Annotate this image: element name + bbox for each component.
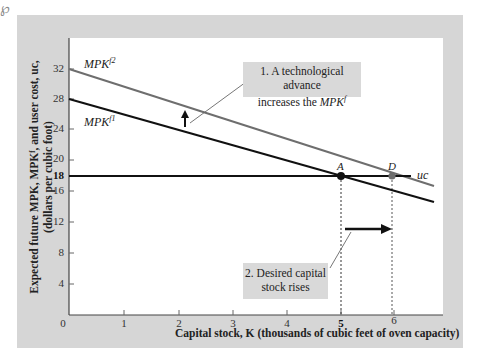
y-axis-title-line1: Expected future MPK, MPKᶠ, and user cost… xyxy=(27,60,41,293)
point-a-dot xyxy=(337,172,345,180)
mpk1-label: MPKf1 xyxy=(84,114,116,130)
y-axis-title: Expected future MPK, MPKᶠ, and user cost… xyxy=(16,38,66,315)
mpk2-label: MPKf2 xyxy=(84,56,116,72)
mpk1-line xyxy=(69,99,434,202)
chart-svg xyxy=(0,0,479,364)
x-tick-marks xyxy=(124,310,394,315)
point-a-label: A xyxy=(337,160,344,172)
annotation-technological-advance: 1. A technological advance increases the… xyxy=(243,62,361,97)
x-tick-6: 6 xyxy=(388,314,400,326)
x-axis-title: Capital stock, K (thousands of cubic fee… xyxy=(175,327,445,339)
up-arrow-head xyxy=(181,110,189,118)
point-d-label: D xyxy=(388,160,396,172)
x-tick-1: 1 xyxy=(118,317,130,329)
annotation-desired-capital-rises: 2. Desired capital stock rises xyxy=(243,263,328,299)
point-d-dot xyxy=(388,172,395,179)
x-tick-0: 0 xyxy=(57,317,69,329)
right-arrow-head xyxy=(381,224,392,234)
y-axis-title-line2: (dollars per cubic foot) xyxy=(41,60,55,293)
uc-label: uc xyxy=(417,168,428,183)
